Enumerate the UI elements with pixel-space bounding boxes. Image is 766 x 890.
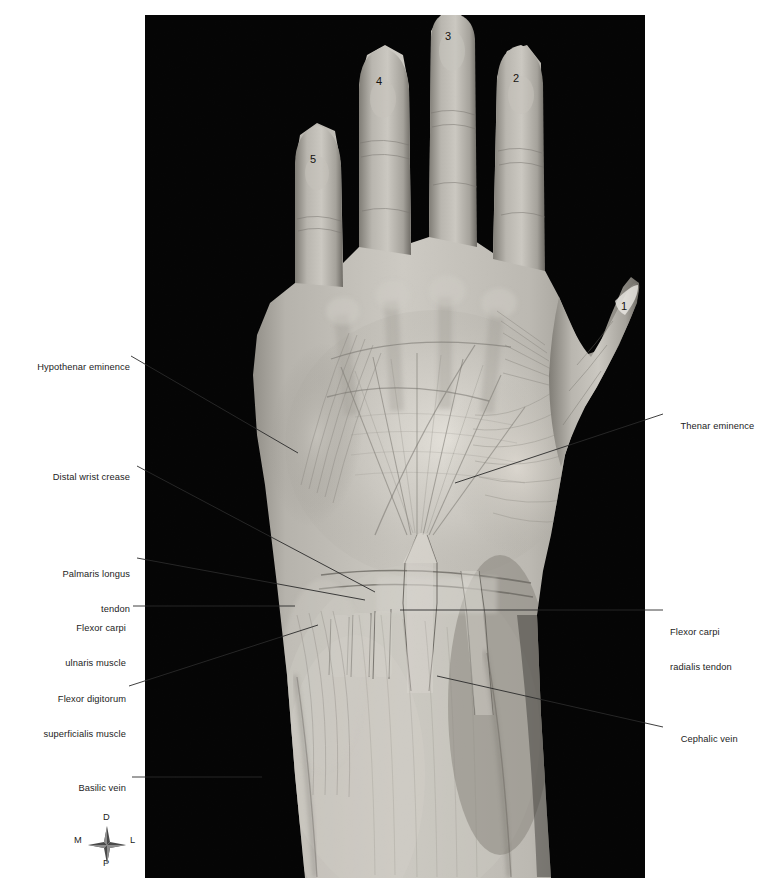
compass-medial-label: M <box>74 835 82 845</box>
label-flexor-carpi-radialis-tendon-line2: radialis tendon <box>670 662 764 674</box>
label-flexor-carpi-radialis-tendon-line1: Flexor carpi <box>670 627 764 639</box>
hand-dissection-photo: 1 2 3 4 5 <box>145 15 645 878</box>
label-flexor-digitorum-superficialis-muscle-line1: Flexor digitorum <box>10 694 126 706</box>
label-flexor-digitorum-superficialis-muscle: Flexor digitorum superficialis muscle <box>10 671 126 764</box>
label-distal-wrist-crease-text: Distal wrist crease <box>53 472 130 482</box>
label-flexor-carpi-ulnaris-muscle-line1: Flexor carpi <box>24 623 126 635</box>
label-cephalic-vein-text: Cephalic vein <box>681 734 738 744</box>
compass-distal-label: D <box>103 812 110 822</box>
label-flexor-carpi-radialis-tendon: Flexor carpi radialis tendon <box>670 604 764 697</box>
compass-lateral-label: L <box>130 835 135 845</box>
label-flexor-carpi-ulnaris-muscle-line2: ulnaris muscle <box>24 658 126 670</box>
label-flexor-digitorum-superficialis-muscle-line2: superficialis muscle <box>10 729 126 741</box>
orientation-compass: D M L P <box>74 812 140 874</box>
label-cephalic-vein: Cephalic vein <box>670 722 764 757</box>
label-basilic-vein-text: Basilic vein <box>78 783 126 793</box>
label-palmaris-longus-tendon-line1: Palmaris longus <box>24 569 130 581</box>
label-distal-wrist-crease: Distal wrist crease <box>24 460 130 495</box>
label-hypothenar-eminence-text: Hypothenar eminence <box>37 362 130 372</box>
compass-star-icon <box>87 825 127 865</box>
label-hypothenar-eminence: Hypothenar eminence <box>14 350 130 385</box>
label-thenar-eminence: Thenar eminence <box>670 409 764 444</box>
anatomy-figure: 1 2 3 4 5 <box>0 0 766 890</box>
label-basilic-vein: Basilic vein <box>24 771 126 806</box>
label-thenar-eminence-text: Thenar eminence <box>681 421 755 431</box>
